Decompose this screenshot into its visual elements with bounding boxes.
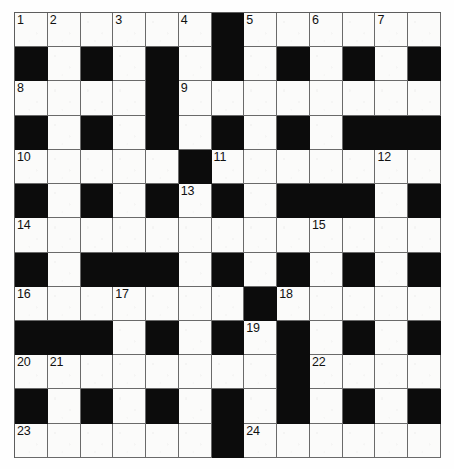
grid-cell[interactable] — [343, 81, 376, 115]
grid-cell[interactable] — [146, 287, 179, 321]
grid-cell[interactable]: 18 — [277, 287, 310, 321]
grid-cell[interactable]: 23 — [15, 424, 48, 458]
grid-cell[interactable]: 24 — [244, 424, 277, 458]
grid-cell[interactable] — [244, 47, 277, 81]
grid-cell[interactable] — [212, 355, 245, 389]
grid-cell[interactable] — [179, 389, 212, 423]
grid-cell[interactable] — [48, 47, 81, 81]
grid-cell[interactable]: 2 — [48, 13, 81, 47]
grid-cell[interactable] — [48, 287, 81, 321]
grid-cell[interactable]: 7 — [375, 13, 408, 47]
grid-cell[interactable] — [81, 150, 114, 184]
grid-cell[interactable] — [310, 389, 343, 423]
grid-cell[interactable] — [244, 116, 277, 150]
grid-cell[interactable] — [212, 218, 245, 252]
grid-cell[interactable] — [48, 150, 81, 184]
grid-cell[interactable] — [277, 13, 310, 47]
grid-cell[interactable] — [310, 253, 343, 287]
grid-cell[interactable] — [81, 218, 114, 252]
grid-cell[interactable] — [408, 424, 441, 458]
grid-cell[interactable] — [375, 218, 408, 252]
grid-cell[interactable] — [113, 116, 146, 150]
crossword-grid[interactable]: 123456789101112131415161718192021222324 — [14, 12, 441, 458]
grid-cell[interactable] — [81, 424, 114, 458]
grid-cell[interactable] — [277, 218, 310, 252]
grid-cell[interactable] — [48, 184, 81, 218]
grid-cell[interactable]: 1 — [15, 13, 48, 47]
grid-cell[interactable]: 22 — [310, 355, 343, 389]
grid-cell[interactable] — [81, 355, 114, 389]
grid-cell[interactable] — [244, 355, 277, 389]
grid-cell[interactable] — [277, 424, 310, 458]
grid-cell[interactable]: 8 — [15, 81, 48, 115]
grid-cell[interactable] — [408, 81, 441, 115]
grid-cell[interactable] — [179, 424, 212, 458]
grid-cell[interactable] — [408, 355, 441, 389]
grid-cell[interactable] — [375, 47, 408, 81]
grid-cell[interactable] — [113, 150, 146, 184]
grid-cell[interactable] — [375, 355, 408, 389]
grid-cell[interactable] — [375, 287, 408, 321]
grid-cell[interactable] — [48, 81, 81, 115]
grid-cell[interactable]: 13 — [179, 184, 212, 218]
grid-cell[interactable] — [343, 287, 376, 321]
grid-cell[interactable] — [81, 81, 114, 115]
grid-cell[interactable] — [310, 116, 343, 150]
grid-cell[interactable] — [310, 321, 343, 355]
grid-cell[interactable] — [179, 355, 212, 389]
grid-cell[interactable]: 6 — [310, 13, 343, 47]
grid-cell[interactable] — [179, 253, 212, 287]
grid-cell[interactable] — [343, 218, 376, 252]
grid-cell[interactable]: 12 — [375, 150, 408, 184]
grid-cell[interactable] — [48, 116, 81, 150]
grid-cell[interactable] — [48, 389, 81, 423]
grid-cell[interactable] — [408, 13, 441, 47]
grid-cell[interactable]: 4 — [179, 13, 212, 47]
grid-cell[interactable] — [113, 355, 146, 389]
grid-cell[interactable]: 3 — [113, 13, 146, 47]
grid-cell[interactable] — [113, 389, 146, 423]
grid-cell[interactable] — [113, 321, 146, 355]
grid-cell[interactable] — [375, 253, 408, 287]
grid-cell[interactable] — [81, 287, 114, 321]
grid-cell[interactable]: 17 — [113, 287, 146, 321]
grid-cell[interactable] — [113, 184, 146, 218]
grid-cell[interactable] — [310, 287, 343, 321]
grid-cell[interactable] — [146, 355, 179, 389]
grid-cell[interactable] — [277, 81, 310, 115]
grid-cell[interactable]: 19 — [244, 321, 277, 355]
grid-cell[interactable] — [375, 389, 408, 423]
grid-cell[interactable] — [310, 47, 343, 81]
grid-cell[interactable] — [310, 150, 343, 184]
grid-cell[interactable] — [375, 81, 408, 115]
grid-cell[interactable] — [146, 13, 179, 47]
grid-cell[interactable] — [113, 218, 146, 252]
grid-cell[interactable]: 16 — [15, 287, 48, 321]
grid-cell[interactable] — [343, 13, 376, 47]
grid-cell[interactable] — [146, 424, 179, 458]
grid-cell[interactable] — [244, 81, 277, 115]
grid-cell[interactable] — [48, 253, 81, 287]
grid-cell[interactable] — [343, 424, 376, 458]
grid-cell[interactable] — [244, 389, 277, 423]
grid-cell[interactable] — [375, 424, 408, 458]
grid-cell[interactable] — [310, 424, 343, 458]
grid-cell[interactable] — [146, 218, 179, 252]
grid-cell[interactable] — [244, 218, 277, 252]
grid-cell[interactable] — [310, 81, 343, 115]
grid-cell[interactable]: 21 — [48, 355, 81, 389]
grid-cell[interactable] — [179, 218, 212, 252]
grid-cell[interactable]: 15 — [310, 218, 343, 252]
grid-cell[interactable] — [48, 218, 81, 252]
grid-cell[interactable] — [212, 81, 245, 115]
grid-cell[interactable]: 20 — [15, 355, 48, 389]
grid-cell[interactable] — [375, 184, 408, 218]
grid-cell[interactable] — [375, 321, 408, 355]
grid-cell[interactable] — [179, 47, 212, 81]
grid-cell[interactable] — [113, 424, 146, 458]
grid-cell[interactable] — [81, 13, 114, 47]
grid-cell[interactable] — [277, 150, 310, 184]
grid-cell[interactable] — [179, 287, 212, 321]
grid-cell[interactable] — [343, 150, 376, 184]
grid-cell[interactable]: 10 — [15, 150, 48, 184]
